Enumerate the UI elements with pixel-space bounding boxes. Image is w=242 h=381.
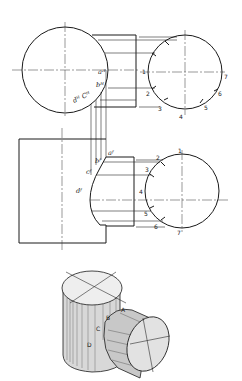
label-aF: aᶠ — [108, 149, 115, 157]
pictorial-label-B: B — [106, 314, 110, 321]
point-5: 5 — [204, 104, 208, 111]
point-3: 3 — [158, 105, 162, 112]
front-point-7: 7 — [177, 229, 181, 236]
label-cF: cᶠ — [86, 168, 93, 176]
point-4: 4 — [179, 113, 183, 120]
intersection-curve — [90, 157, 106, 225]
top-view: 1 2 3 4 5 6 7 aᴴ bᴴ dᴴ Cᴴ — [12, 22, 228, 120]
label-aH: aᴴ — [98, 68, 106, 76]
front-point-5: 5 — [144, 210, 148, 217]
front-view: 1 2 3 4 5 6 7 aᶠ bᶠ cᶠ dᶠ — [19, 128, 230, 250]
point-2: 2 — [146, 90, 150, 97]
point-7: 7 — [224, 73, 228, 80]
front-point-6: 6 — [154, 223, 158, 230]
front-point-3: 3 — [145, 166, 149, 173]
drawing-canvas: 1 2 3 4 5 6 7 aᴴ bᴴ dᴴ Cᴴ — [0, 0, 242, 381]
point-1: 1 — [142, 68, 146, 75]
pictorial-view: D C B A — [62, 271, 176, 378]
label-dF: dᶠ — [76, 187, 83, 195]
label-dH-cH: dᴴ Cᴴ — [71, 90, 91, 105]
point-6: 6 — [218, 90, 222, 97]
pictorial-label-C: C — [96, 325, 100, 332]
label-bH: bᴴ — [96, 81, 104, 89]
large-cylinder-front-rect — [19, 139, 106, 243]
front-point-4: 4 — [139, 188, 143, 195]
pictorial-label-D: D — [87, 341, 92, 348]
front-point-2: 2 — [156, 154, 160, 161]
front-point-1: 1 — [178, 147, 182, 154]
small-cylinder-front-rect — [106, 157, 134, 226]
